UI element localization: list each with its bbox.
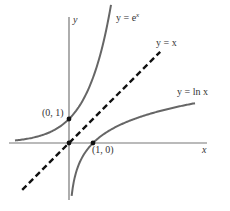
point-label-0-1: (0, 1)	[42, 107, 64, 119]
exp-label: y = ex	[116, 11, 140, 23]
point-marker	[67, 141, 72, 146]
x-axis-label: x	[201, 144, 207, 155]
ln-curve	[72, 103, 195, 196]
exp-curve	[15, 5, 111, 141]
ln-label: y = ln x	[177, 86, 208, 97]
point-marker	[67, 117, 72, 122]
identity-dashed-line	[22, 52, 160, 190]
y-axis-label: y	[72, 14, 78, 25]
point-label-1-0: (1, 0)	[92, 144, 114, 156]
function-graph: y x y = ex y = x y = ln x (0, 1) (1, 0)	[0, 0, 230, 211]
identity-label: y = x	[156, 37, 177, 48]
